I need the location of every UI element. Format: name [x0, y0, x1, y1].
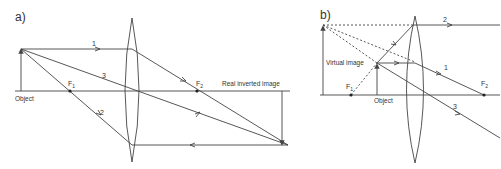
arrowhead — [195, 112, 200, 117]
lens-ray-diagrams: a) F1 F2 1 2 3 Object Real inv — [0, 0, 501, 169]
ray-1-label: 1 — [444, 64, 448, 71]
f1-label: F1 — [346, 83, 353, 92]
panel-b: b) F1 F2 1 — [320, 8, 500, 163]
focal-point-f2 — [195, 89, 198, 92]
image-label: Virtual image — [326, 59, 364, 67]
f1-label: F1 — [68, 80, 75, 89]
ray-1 — [377, 63, 484, 95]
arrowhead — [391, 41, 396, 45]
ray-3-label: 3 — [453, 103, 457, 110]
panel-a-label: a) — [15, 10, 26, 24]
ray-2-label: 2 — [100, 109, 104, 116]
focal-point-f1 — [68, 89, 71, 92]
ray-1-label: 1 — [92, 40, 96, 47]
f2-label: F2 — [481, 80, 488, 89]
f2-label: F2 — [196, 80, 203, 89]
object-label: Object — [374, 97, 393, 105]
focal-point-f2 — [482, 93, 485, 96]
panel-b-label: b) — [320, 8, 331, 22]
image-label: Real inverted image — [222, 80, 280, 88]
panel-a: a) F1 F2 1 2 3 Object Real inv — [15, 10, 290, 162]
object-label: Object — [15, 95, 34, 103]
ray-3 — [21, 49, 288, 145]
ray-2-label: 2 — [443, 16, 447, 23]
focal-point-f1 — [349, 93, 352, 96]
ray-3-label: 3 — [102, 72, 106, 79]
